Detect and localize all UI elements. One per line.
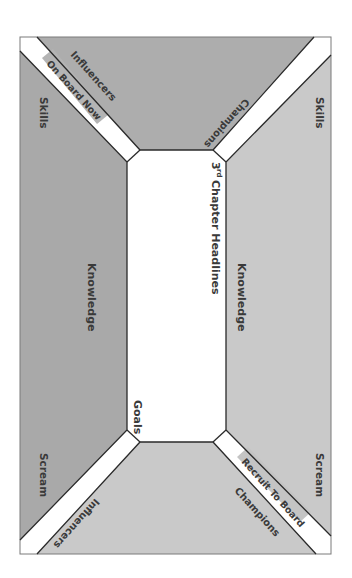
- right-knowledge-label: Knowledge: [235, 263, 248, 332]
- center-title: Chapter Headlines: [209, 180, 222, 295]
- left-scream-label: Scream: [38, 453, 50, 497]
- goals-label: Goals: [131, 400, 144, 435]
- diagram-canvas: 3 rd Chapter Headlines Goals Skills Know…: [0, 0, 352, 578]
- left-knowledge-label: Knowledge: [85, 263, 98, 332]
- right-skills-label: Skills: [314, 97, 326, 129]
- center-title-superscript: rd: [215, 169, 223, 177]
- left-skills-label: Skills: [38, 97, 50, 129]
- right-scream-label: Scream: [314, 453, 326, 497]
